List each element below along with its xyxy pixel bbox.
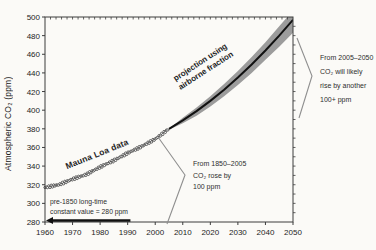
axis-frame — [45, 17, 293, 222]
mauna-loa-point — [87, 173, 89, 175]
x-tick-label: 1980 — [91, 228, 109, 237]
mauna-loa-point — [126, 153, 128, 155]
mauna-loa-point — [134, 149, 136, 151]
y-axis-title: Atmospheric CO₂ (ppm) — [1, 56, 14, 192]
bracket-2005-2050 — [297, 38, 312, 118]
pre-1850-arrow-head — [46, 217, 53, 224]
mauna-loa-point — [110, 162, 112, 164]
pre-1850-baseline-annotation: pre-1850 long-time constant value = 280 … — [50, 197, 128, 217]
x-tick-label: 2020 — [201, 228, 219, 237]
y-tick-label: 440 — [27, 69, 41, 78]
mauna-loa-point — [162, 133, 164, 135]
y-tick-label: 360 — [27, 143, 41, 152]
rise-1850-2005-annotation: From 1850–2005 CO₂ rose by 100 ppm — [193, 158, 246, 193]
y-tick-label: 320 — [27, 181, 41, 190]
co2-projection-figure: 1960197019801990200020102020203020402050… — [0, 0, 376, 250]
mauna-loa-point — [85, 174, 87, 176]
y-tick-label: 380 — [27, 125, 41, 134]
mauna-loa-point — [74, 178, 76, 180]
mauna-loa-point — [167, 129, 169, 131]
x-tick-label: 2030 — [229, 228, 247, 237]
mauna-loa-point — [148, 142, 150, 144]
y-tick-label: 480 — [27, 32, 41, 41]
mauna-loa-point — [159, 135, 161, 137]
y-tick-label: 460 — [27, 50, 41, 59]
rise-2005-2050-annotation: From 2005–2050 CO₂ will likely rise by a… — [320, 51, 373, 107]
y-tick-label: 500 — [27, 13, 41, 22]
mauna-loa-point — [137, 148, 139, 150]
mauna-loa-point — [123, 155, 125, 157]
mauna-loa-point — [60, 183, 62, 185]
y-tick-label: 340 — [27, 162, 41, 171]
mauna-loa-point — [98, 167, 100, 169]
y-tick-label: 420 — [27, 88, 41, 97]
x-tick-label: 1960 — [36, 228, 54, 237]
mauna-loa-point — [101, 166, 103, 168]
mauna-loa-point — [112, 161, 114, 163]
y-tick-label: 300 — [27, 199, 41, 208]
y-tick-label: 280 — [27, 218, 41, 227]
x-tick-label: 2010 — [174, 228, 192, 237]
bracket-1850-2005 — [158, 137, 185, 224]
y-tick-label: 400 — [27, 106, 41, 115]
mauna-loa-point — [62, 183, 64, 185]
x-tick-label: 1990 — [119, 228, 137, 237]
x-tick-label: 1970 — [64, 228, 82, 237]
x-tick-label: 2000 — [146, 228, 164, 237]
x-tick-label: 2040 — [257, 228, 275, 237]
mauna-loa-point — [150, 141, 152, 143]
x-tick-label: 2050 — [284, 228, 302, 237]
